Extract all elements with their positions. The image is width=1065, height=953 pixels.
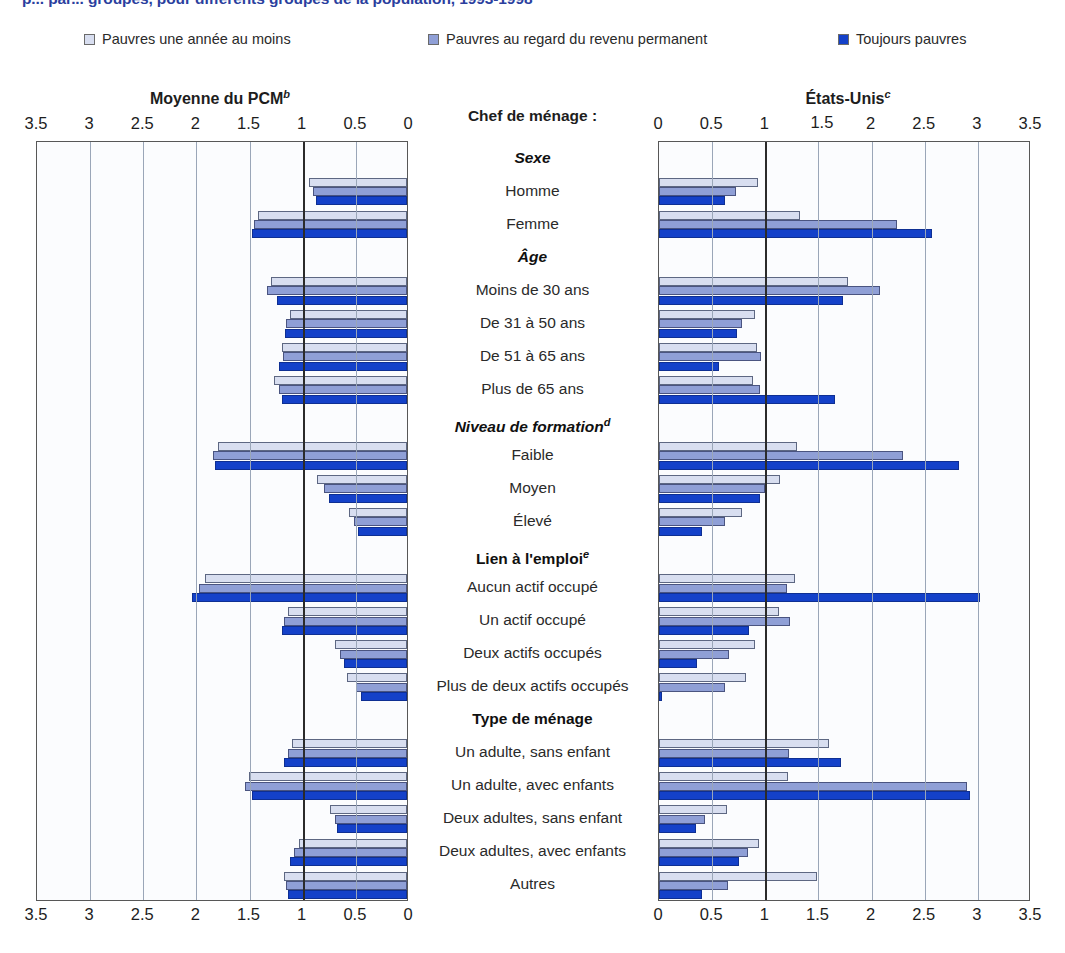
axis-tick-3: 3 — [85, 112, 94, 134]
bar-series-0 — [249, 772, 407, 781]
category-label: Faible — [410, 446, 655, 464]
axis-tick-2-5: 2.5 — [912, 112, 935, 134]
bar-series-1 — [659, 683, 725, 692]
bar-series-2 — [316, 196, 407, 205]
category-label-text: Lien à l'emploi — [476, 550, 583, 567]
bar-series-1 — [335, 815, 407, 824]
bar-series-0 — [218, 442, 407, 451]
bar-series-2 — [659, 329, 737, 338]
axis-tick-3-5: 3.5 — [25, 903, 48, 925]
bar-series-1 — [245, 782, 407, 791]
category-label-text: Âge — [518, 248, 547, 265]
bar-series-1 — [294, 848, 407, 857]
bar-series-0 — [309, 178, 407, 187]
bar-series-0 — [659, 178, 758, 187]
bar-series-0 — [317, 475, 407, 484]
category-label-superscript: d — [604, 416, 611, 428]
bar-series-0 — [274, 376, 407, 385]
data-row — [659, 671, 1029, 704]
bar-series-0 — [258, 211, 407, 220]
gridline-3 — [978, 142, 979, 900]
gridline-0.5 — [356, 142, 357, 900]
bars-right — [659, 142, 1029, 900]
axis-right-top: 00.511.522.533.5 — [628, 112, 1065, 134]
category-label-text: Plus de 65 ans — [481, 380, 584, 397]
panel-heading-left: Moyenne du PCMb — [0, 82, 440, 106]
data-row — [659, 472, 1029, 505]
bar-series-2 — [659, 626, 749, 635]
panel-heading-right-superscript: c — [885, 88, 891, 100]
data-row — [37, 671, 407, 704]
bar-series-1 — [659, 220, 897, 229]
bar-series-2 — [659, 296, 843, 305]
bar-series-2 — [659, 362, 719, 371]
category-group-label: Niveau de formationd — [410, 413, 655, 436]
gridline-1.5 — [818, 142, 819, 900]
category-label-text: Autres — [510, 875, 555, 892]
center-column-header: Chef de ménage : — [410, 104, 655, 128]
bar-series-1 — [267, 286, 407, 295]
data-row — [37, 340, 407, 373]
axis-tick-0-5: 0.5 — [343, 112, 366, 134]
gridline-2.5 — [925, 142, 926, 900]
data-row — [659, 572, 1029, 605]
bar-series-1 — [279, 385, 407, 394]
axis-tick-3-5: 3.5 — [1019, 903, 1042, 925]
bar-series-2 — [282, 626, 407, 635]
bar-series-2 — [659, 890, 702, 899]
bar-series-0 — [282, 343, 407, 352]
bar-series-0 — [659, 211, 800, 220]
bar-series-0 — [659, 607, 779, 616]
legend-item-revenu-permanent: Pauvres au regard du revenu permanent — [428, 28, 707, 50]
category-label-text: Plus de deux actifs occupés — [436, 677, 628, 694]
data-row — [37, 373, 407, 406]
bar-series-2 — [659, 791, 970, 800]
bar-series-2 — [344, 659, 407, 668]
category-label-text: Niveau de formation — [455, 418, 604, 435]
axis-tick-0: 0 — [653, 112, 662, 134]
category-label-text: Femme — [506, 215, 559, 232]
reference-line-1 — [765, 142, 767, 900]
bar-series-2 — [277, 296, 407, 305]
category-label: Plus de 65 ans — [410, 380, 655, 398]
bar-series-2 — [282, 395, 407, 404]
bar-series-2 — [279, 362, 407, 371]
bar-series-0 — [659, 508, 742, 517]
bar-series-2 — [659, 593, 980, 602]
category-label-text: Un adulte, avec enfants — [451, 776, 614, 793]
axis-tick-3: 3 — [972, 112, 981, 134]
bar-series-1 — [659, 584, 787, 593]
bar-series-2 — [659, 196, 725, 205]
gridline-3 — [90, 142, 91, 900]
bar-series-0 — [292, 739, 407, 748]
bar-series-2 — [215, 461, 407, 470]
data-row — [659, 869, 1029, 902]
bar-series-0 — [205, 574, 407, 583]
axis-right-bottom: 00.511.522.533.5 — [628, 903, 1065, 925]
bar-series-2 — [659, 461, 959, 470]
category-label-text: Élevé — [513, 512, 552, 529]
legend-label-series-1: Pauvres au regard du revenu permanent — [446, 31, 707, 47]
group-row — [659, 539, 1029, 572]
bar-series-0 — [330, 805, 407, 814]
bars-left — [37, 142, 407, 900]
bar-series-1 — [659, 517, 725, 526]
page-title: p... par... groupes, pour différents gro… — [0, 0, 1065, 10]
panel-heading-left-superscript: b — [283, 88, 290, 100]
group-row — [37, 704, 407, 737]
axis-tick-3: 3 — [85, 903, 94, 925]
data-row — [659, 340, 1029, 373]
data-row — [659, 208, 1029, 241]
axis-tick-3-5: 3.5 — [25, 112, 48, 134]
category-label-text: Deux adultes, sans enfant — [443, 809, 622, 826]
bar-series-0 — [290, 310, 407, 319]
category-label: Aucun actif occupé — [410, 578, 655, 596]
group-row — [37, 142, 407, 175]
bar-series-0 — [659, 673, 746, 682]
legend-item-pauvres-une-annee: Pauvres une année au moins — [84, 28, 291, 50]
bar-series-1 — [213, 451, 408, 460]
group-row — [37, 241, 407, 274]
axis-tick-2: 2 — [866, 112, 875, 134]
category-group-label: Lien à l'emploie — [410, 545, 655, 568]
plot-area-left — [36, 141, 408, 901]
